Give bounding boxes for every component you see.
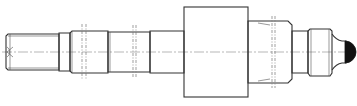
shaft-drawing-svg [0, 0, 357, 106]
threaded-end-right [308, 29, 332, 76]
ball-tip-icon [345, 41, 356, 63]
shaft-drawing [0, 0, 357, 106]
